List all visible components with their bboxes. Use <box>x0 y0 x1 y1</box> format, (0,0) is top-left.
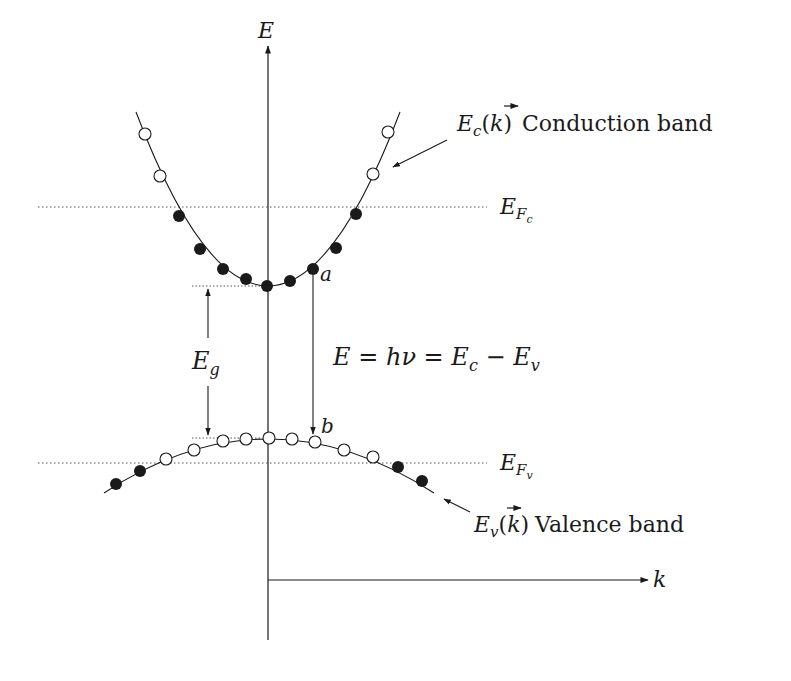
eq-Ev: E <box>512 343 531 371</box>
vb-k: k <box>507 512 520 537</box>
cb-close: ) <box>503 111 512 136</box>
eq-nu: ν <box>401 343 416 371</box>
band-gap-label: Eg <box>191 347 220 379</box>
efc-E: E <box>499 194 516 219</box>
electron-dot <box>134 465 146 477</box>
gap-symbol: E <box>191 347 210 375</box>
electron-dot <box>284 275 296 287</box>
vb-E: E <box>473 512 490 537</box>
hole-circle <box>240 433 252 445</box>
band-diagram: E k <box>0 0 791 681</box>
hole-circle <box>217 435 229 447</box>
conduction-pointer-arrow <box>393 140 447 167</box>
efv-v: v <box>526 469 533 482</box>
electron-dot <box>217 263 229 275</box>
cb-k: k <box>490 111 503 136</box>
valence-holes <box>160 432 379 465</box>
electron-dot <box>110 478 122 490</box>
cb-E: E <box>456 111 473 136</box>
photon-energy-equation: E = hν = Ec − Ev <box>332 343 540 375</box>
point-b-label: b <box>321 414 334 438</box>
empty-state-circle <box>382 126 394 138</box>
cb-open: ( <box>481 111 490 136</box>
point-a-label: a <box>320 262 332 286</box>
vb-text: Valence band <box>534 512 684 537</box>
valence-band-curve <box>104 439 434 493</box>
empty-state-circle <box>139 128 151 140</box>
electron-dot <box>330 242 342 254</box>
vb-close: ) <box>520 512 529 537</box>
eq-v-sub: v <box>531 356 540 375</box>
efc-F: F <box>515 205 527 223</box>
valence-pointer-arrow <box>444 499 470 512</box>
hole-circle <box>367 451 379 463</box>
vb-open: ( <box>499 512 508 537</box>
valence-electrons <box>110 461 428 490</box>
electron-dot <box>416 475 428 487</box>
eq-equals-1: = <box>351 343 386 371</box>
cb-text: Conduction band <box>522 111 713 136</box>
empty-state-circle <box>154 170 166 182</box>
hole-circle <box>309 436 321 448</box>
hole-circle <box>338 444 350 456</box>
electron-dot <box>261 280 273 292</box>
electron-dot <box>240 273 252 285</box>
eq-equals-2: = <box>416 343 451 371</box>
electron-dot <box>307 263 319 275</box>
fermi-valence-label: EFv <box>499 450 533 482</box>
hole-circle <box>286 433 298 445</box>
electron-dot <box>392 461 404 473</box>
empty-state-circle <box>367 168 379 180</box>
eq-c-sub: c <box>469 356 478 375</box>
electron-dot <box>194 243 206 255</box>
eq-E: E <box>332 343 351 371</box>
energy-axis-label: E <box>257 18 274 43</box>
hole-circle <box>263 432 275 444</box>
efc-c: c <box>526 213 532 226</box>
eq-Ec: E <box>450 343 469 371</box>
hole-circle <box>160 453 172 465</box>
eq-h: h <box>386 343 401 371</box>
conduction-empty-states <box>139 126 394 182</box>
efv-F: F <box>515 461 527 479</box>
efv-E: E <box>499 450 516 475</box>
eq-minus: − <box>478 343 513 371</box>
electron-dot <box>350 208 362 220</box>
gap-subscript: g <box>210 360 220 379</box>
valence-band-label: Ev(k)Valence band <box>473 512 684 541</box>
hole-circle <box>188 444 200 456</box>
conduction-band-label: Ec(k)Conduction band <box>456 111 713 140</box>
k-axis-label: k <box>653 567 666 592</box>
fermi-conduction-label: EFc <box>499 194 533 226</box>
electron-dot <box>173 210 185 222</box>
